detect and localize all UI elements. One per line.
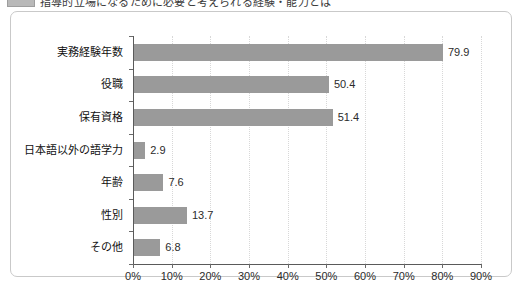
x-axis-tick-label: 50%: [315, 270, 337, 282]
bar: [134, 239, 160, 256]
x-axis-tick-label: 70%: [393, 270, 415, 282]
y-axis-tick: [129, 199, 133, 200]
y-axis-tick: [129, 134, 133, 135]
gridline: [326, 36, 328, 264]
gridline: [481, 36, 483, 264]
bar-value-label: 79.9: [448, 44, 469, 61]
x-axis-tick: [210, 264, 211, 268]
gridline: [172, 36, 174, 264]
x-axis-tick: [365, 264, 366, 268]
y-axis-tick: [129, 101, 133, 102]
x-axis-line: [133, 264, 481, 265]
category-label: 年齢: [101, 174, 123, 191]
bar: [134, 142, 145, 159]
category-label: 日本語以外の語学力: [24, 142, 123, 159]
category-label: 保有資格: [79, 109, 123, 126]
gridline: [210, 36, 212, 264]
chart-page: 指導的立場になるために必要と考えられる経験・能力とは 実務経験年数役職保有資格日…: [0, 0, 525, 287]
y-axis-tick: [129, 36, 133, 37]
category-label: 性別: [101, 207, 123, 224]
bar: [134, 174, 163, 191]
x-axis-tick: [172, 264, 173, 268]
category-label: 役職: [101, 76, 123, 93]
x-axis-tick-label: 0%: [125, 270, 141, 282]
chart-number-badge: [7, 0, 35, 7]
x-axis-tick-label: 60%: [354, 270, 376, 282]
bar: [134, 109, 333, 126]
x-axis-tick: [288, 264, 289, 268]
bar-value-label: 50.4: [334, 76, 355, 93]
y-axis-tick: [129, 231, 133, 232]
bar: [134, 76, 329, 93]
x-axis-tick: [133, 264, 134, 268]
bar-value-label: 51.4: [338, 109, 359, 126]
y-axis-tick: [129, 166, 133, 167]
y-axis-tick: [129, 264, 133, 265]
x-axis-tick: [481, 264, 482, 268]
bar-value-label: 6.8: [165, 239, 180, 256]
category-label: その他: [90, 239, 123, 256]
category-axis-labels: 実務経験年数役職保有資格日本語以外の語学力年齢性別その他: [11, 36, 129, 264]
x-axis-tick-label: 40%: [277, 270, 299, 282]
x-axis-tick-label: 10%: [161, 270, 183, 282]
bar: [134, 207, 187, 224]
x-axis-tick: [442, 264, 443, 268]
x-axis-tick-label: 90%: [470, 270, 492, 282]
gridline: [365, 36, 367, 264]
x-axis-tick: [249, 264, 250, 268]
x-axis-tick: [404, 264, 405, 268]
gridline: [442, 36, 444, 264]
y-axis-tick: [129, 69, 133, 70]
bar-value-label: 7.6: [168, 174, 183, 191]
x-axis-tick-label: 20%: [199, 270, 221, 282]
x-axis-tick-label: 80%: [431, 270, 453, 282]
gridline: [249, 36, 251, 264]
gridline: [288, 36, 290, 264]
x-axis-tick: [326, 264, 327, 268]
bar-value-label: 2.9: [150, 142, 165, 159]
bar: [134, 44, 443, 61]
figure-caption-text: 指導的立場になるために必要と考えられる経験・能力とは: [40, 0, 331, 9]
category-label: 実務経験年数: [57, 44, 123, 61]
plot-area: 0%10%20%30%40%50%60%70%80%90%79.950.451.…: [133, 36, 481, 264]
figure-caption-strip: 指導的立場になるために必要と考えられる経験・能力とは: [0, 0, 525, 9]
chart-frame: 実務経験年数役職保有資格日本語以外の語学力年齢性別その他 0%10%20%30%…: [10, 11, 512, 277]
bar-value-label: 13.7: [192, 207, 213, 224]
x-axis-tick-label: 30%: [238, 270, 260, 282]
gridline: [404, 36, 406, 264]
